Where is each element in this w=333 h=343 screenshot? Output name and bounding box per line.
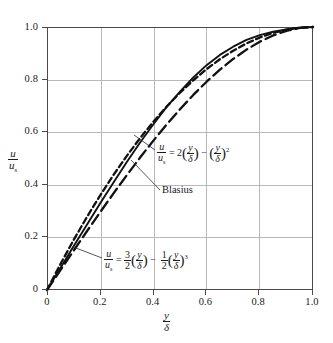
parabolic-lhs-subscript: s	[163, 158, 165, 165]
y-tick-mark	[42, 79, 47, 80]
y-axis-denominator-subscript: s	[15, 167, 18, 174]
cubic-term2-denominator: δ	[173, 260, 180, 271]
parabolic-term1-denominator: δ	[187, 153, 194, 164]
cubic-term1-denominator: δ	[136, 260, 143, 271]
cubic-lhs-numerator: u	[104, 249, 113, 259]
cubic-term2-numerator: y	[173, 250, 180, 260]
x-tick-label: 0.4	[133, 296, 173, 307]
y-tick-mark	[42, 236, 47, 237]
cubic-coef2-denominator: 2	[161, 260, 168, 271]
y-tick-mark	[42, 27, 47, 28]
curve-layer	[0, 0, 333, 343]
chart-figure: 1.0 0.8 0.6 0.4 0.2 0 0 0.2 0.4 0.6 0.8 …	[0, 0, 333, 343]
x-tick-mark	[205, 290, 206, 295]
cubic-coef1-denominator: 2	[124, 260, 131, 271]
parabolic-equals: =	[169, 147, 175, 158]
x-axis-denominator: δ	[163, 321, 170, 333]
leader-line-blasius	[131, 160, 160, 190]
cubic-term1-numerator: y	[136, 250, 143, 260]
x-tick-label: 0.8	[238, 296, 278, 307]
x-tick-label: 0.2	[80, 296, 120, 307]
x-tick-label: 1.0	[292, 296, 332, 307]
y-tick-label: 0.6	[4, 125, 38, 136]
cubic-paren-close: )	[143, 252, 148, 268]
annotation-cubic-profile: u us = 32(yδ) − 12(yδ)3	[104, 249, 188, 273]
cubic-lhs-subscript: s	[110, 265, 112, 272]
x-axis-title: y δ	[163, 310, 170, 334]
cubic-coef2-numerator: 1	[161, 250, 168, 260]
parabolic-term1-numerator: y	[187, 143, 194, 153]
x-tick-mark	[153, 290, 154, 295]
y-tick-mark	[42, 131, 47, 132]
x-tick-label: 0.6	[185, 296, 225, 307]
y-axis-title: u us	[8, 148, 18, 174]
leader-line-cubic	[76, 248, 102, 258]
parabolic-minus: −	[201, 147, 207, 158]
y-tick-label: 0	[4, 283, 38, 294]
x-tick-mark	[100, 290, 101, 295]
cubic-exponent: 3	[185, 253, 188, 260]
y-tick-label: 1.0	[4, 21, 38, 32]
x-axis-numerator: y	[163, 310, 170, 321]
annotation-blasius: Blasius	[162, 184, 193, 195]
y-tick-label: 0.8	[4, 73, 38, 84]
annotation-parabolic-profile: u us = 2(yδ) − (yδ)2	[157, 142, 229, 166]
y-axis-numerator: u	[8, 148, 18, 159]
cubic-minus: −	[150, 254, 156, 265]
parabolic-lhs-numerator: u	[157, 142, 166, 152]
x-tick-label: 0	[27, 296, 67, 307]
parabolic-exponent: 2	[226, 146, 229, 153]
cubic-equals: =	[116, 254, 122, 265]
parabolic-paren-close: )	[194, 145, 199, 161]
x-tick-mark	[312, 290, 313, 295]
x-tick-mark	[47, 290, 48, 295]
y-tick-label: 0.4	[4, 178, 38, 189]
y-tick-mark	[42, 184, 47, 185]
x-tick-mark	[258, 290, 259, 295]
y-tick-label: 0.2	[4, 230, 38, 241]
cubic-coef1-numerator: 3	[124, 250, 131, 260]
